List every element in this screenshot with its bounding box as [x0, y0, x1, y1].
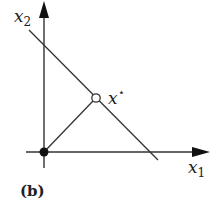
- projection-segment: [44, 101, 93, 152]
- x-axis-arrow-icon: [192, 147, 210, 157]
- y-axis-label: x2: [14, 6, 31, 29]
- diagram-figure: x2 x1 x⋆ (b): [0, 0, 218, 207]
- panel-label: (b): [20, 182, 45, 200]
- optimum-label: x⋆: [108, 86, 125, 108]
- y-axis: [39, 1, 49, 168]
- x-axis: [26, 147, 210, 157]
- x-axis-label: x1: [188, 157, 205, 180]
- y-axis-arrow-icon: [39, 1, 49, 18]
- origin-point: [40, 148, 49, 157]
- optimum-point: [92, 94, 100, 102]
